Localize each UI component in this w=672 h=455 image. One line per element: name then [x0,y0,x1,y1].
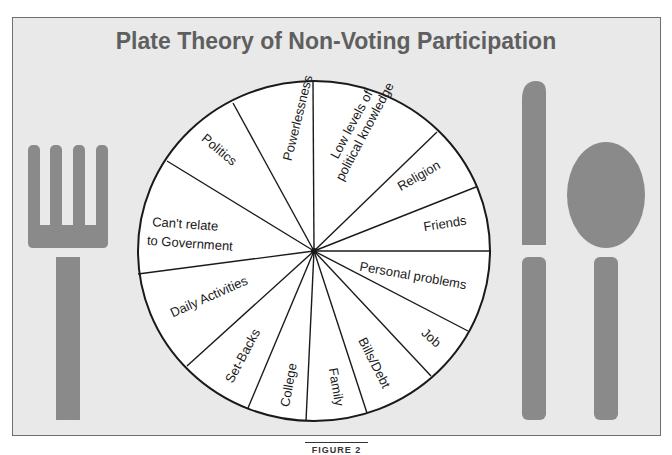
figure-caption: FIGURE 2 [305,446,368,455]
caption-rule [305,442,368,443]
plate: Powerlessness Low levels of political kn… [138,73,491,421]
fork-icon [28,145,108,420]
spoon-icon [567,142,645,420]
knife-icon [522,81,546,420]
